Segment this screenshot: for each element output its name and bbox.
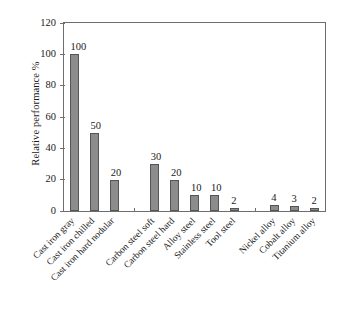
y-axis-tick-label: 100 <box>40 47 56 61</box>
bar <box>270 205 279 211</box>
plot-area: 0204060801001201005020302010102432 <box>63 22 326 212</box>
bar-value-label: 2 <box>311 195 316 207</box>
y-axis-tick-label: 120 <box>40 16 56 30</box>
bar <box>310 208 319 211</box>
bar <box>70 54 79 211</box>
y-axis-tick-label: 20 <box>46 172 57 186</box>
x-axis-tick <box>255 208 256 212</box>
bar-value-label: 20 <box>171 167 182 179</box>
bar-value-label: 50 <box>91 120 102 132</box>
bar-value-label: 100 <box>71 41 87 53</box>
bar <box>90 133 99 211</box>
bar <box>150 164 159 211</box>
y-axis-tick-mark <box>60 85 65 86</box>
y-axis-title: Relative performance % <box>30 19 41 209</box>
bar-value-label: 30 <box>151 151 162 163</box>
y-axis-tick-label: 60 <box>46 110 57 124</box>
bar-value-label: 2 <box>231 195 236 207</box>
y-axis-tick-mark <box>60 179 65 180</box>
y-axis-tick-mark <box>60 54 65 55</box>
x-axis-tick <box>134 208 135 212</box>
bar-value-label: 4 <box>271 192 276 204</box>
bar-value-label: 10 <box>191 182 202 194</box>
y-axis-tick-label: 40 <box>46 141 57 155</box>
bar <box>210 195 219 211</box>
bar-value-label: 20 <box>111 167 122 179</box>
bar <box>170 180 179 211</box>
bar <box>230 208 239 211</box>
y-axis-tick-label: 80 <box>46 78 57 92</box>
y-axis-tick-mark <box>60 23 65 24</box>
bar-value-label: 10 <box>211 182 222 194</box>
y-axis-tick-mark <box>60 117 65 118</box>
bar <box>190 195 199 211</box>
bar-value-label: 3 <box>291 193 296 205</box>
y-axis-tick-mark <box>60 211 65 212</box>
bar <box>290 206 299 211</box>
bar-chart-figure: Relative performance % 02040608010012010… <box>0 0 344 311</box>
y-axis-tick-label: 0 <box>51 204 56 218</box>
y-axis-tick-mark <box>60 148 65 149</box>
bar <box>110 180 119 211</box>
